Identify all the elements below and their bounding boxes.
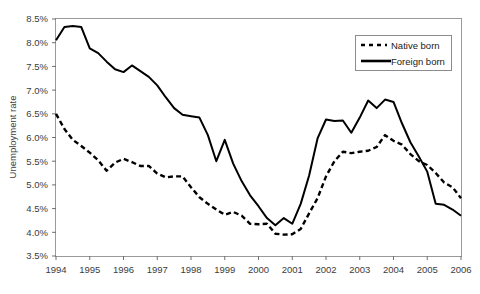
x-tick-label: 1995 (79, 264, 100, 275)
x-tick-label: 2004 (383, 264, 404, 275)
y-tick-label: 5.0% (26, 179, 48, 190)
x-tick-label: 2000 (248, 264, 269, 275)
x-tick-label: 2005 (417, 264, 438, 275)
y-tick-label: 8.0% (26, 37, 48, 48)
x-tick-label: 1994 (45, 264, 66, 275)
x-tick-label: 2002 (315, 264, 336, 275)
y-tick-label: 6.5% (26, 108, 48, 119)
x-tick-label: 1997 (147, 264, 168, 275)
chart-canvas: 3.5%4.0%4.5%5.0%5.5%6.0%6.5%7.0%7.5%8.0%… (0, 0, 480, 294)
legend-label-foreign-born: Foreign born (391, 56, 445, 67)
x-tick-label: 2001 (282, 264, 303, 275)
x-tick-label: 1996 (113, 264, 134, 275)
y-tick-label: 4.5% (26, 203, 48, 214)
x-tick-label: 2006 (450, 264, 471, 275)
y-axis-title: Unemployment rate (7, 96, 18, 179)
y-tick-label: 6.0% (26, 132, 48, 143)
unemployment-rate-line-chart: 3.5%4.0%4.5%5.0%5.5%6.0%6.5%7.0%7.5%8.0%… (0, 0, 480, 294)
y-tick-label: 8.5% (26, 13, 48, 24)
x-tick-label: 2003 (349, 264, 370, 275)
y-tick-label: 5.5% (26, 156, 48, 167)
x-tick-label: 1999 (214, 264, 235, 275)
x-tick-label: 1998 (180, 264, 201, 275)
y-tick-label: 7.0% (26, 85, 48, 96)
legend-label-native-born: Native born (391, 40, 440, 51)
legend: Native born Foreign born (356, 36, 452, 71)
y-tick-label: 3.5% (26, 250, 48, 261)
y-tick-label: 4.0% (26, 227, 48, 238)
y-tick-label: 7.5% (26, 61, 48, 72)
